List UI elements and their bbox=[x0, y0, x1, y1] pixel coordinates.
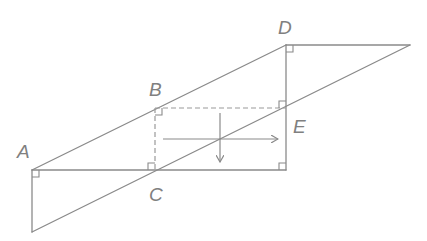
label-D: D bbox=[278, 17, 292, 38]
right-angle-mark-A bbox=[32, 170, 39, 177]
right-angle-mark-corner bbox=[279, 163, 286, 170]
right-angle-mark-D bbox=[286, 45, 293, 52]
label-C: C bbox=[149, 184, 163, 205]
right-angle-mark-C bbox=[148, 163, 155, 170]
label-B: B bbox=[149, 79, 162, 100]
label-E: E bbox=[293, 116, 306, 137]
label-A: A bbox=[16, 141, 30, 162]
geometry-diagram: A B C D E bbox=[0, 0, 427, 241]
